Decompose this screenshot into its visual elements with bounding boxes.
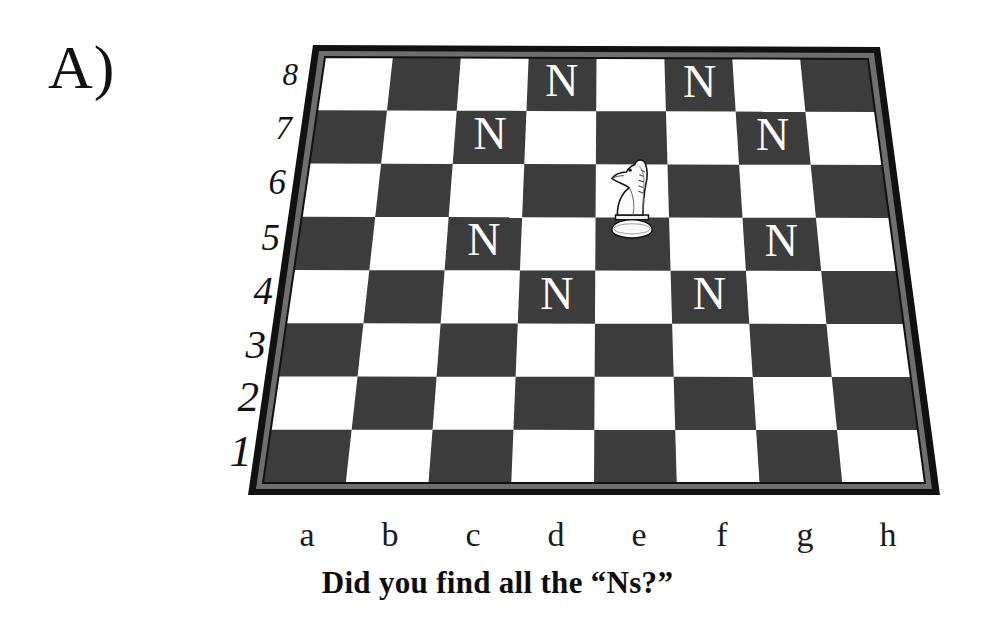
file-label-e: e [619, 516, 659, 554]
chessboard-figure: NNNNNNNN 8 7 6 5 4 3 2 1 a b c d e f g h [0, 0, 995, 630]
board-square-a1 [263, 430, 352, 483]
board-square-c1 [429, 430, 514, 483]
rank-label-6: 6 [246, 163, 286, 203]
knight-move-marker-d8: N [545, 55, 578, 106]
knight-move-marker-f8: N [683, 56, 716, 107]
rank-label-4: 4 [233, 268, 273, 313]
file-label-d: d [536, 516, 576, 554]
rank-label-8: 8 [258, 57, 298, 93]
board-square-e1 [594, 430, 677, 483]
rank-label-5: 5 [240, 216, 280, 259]
board-square-b2 [352, 377, 437, 430]
file-label-f: f [702, 516, 742, 554]
board-square-a7 [310, 110, 387, 163]
board-square-g3 [749, 324, 831, 377]
file-label-a: a [287, 516, 327, 554]
board-square-c3 [437, 323, 518, 376]
knight-move-marker-g7: N [756, 109, 789, 160]
file-label-b: b [370, 516, 410, 554]
board-square-f6 [667, 164, 742, 217]
file-label-h: h [868, 516, 908, 554]
board-square-d6 [522, 164, 596, 217]
board-square-a3 [279, 323, 364, 376]
chessboard-svg: NNNNNNNN [0, 0, 995, 630]
board-square-e3 [595, 324, 674, 377]
board-square-g1 [756, 430, 842, 483]
file-label-c: c [453, 516, 493, 554]
board-square-h8 [800, 59, 875, 112]
rank-label-7: 7 [252, 110, 292, 147]
board-square-d2 [513, 377, 594, 430]
board-square-e7 [596, 111, 668, 164]
knight-move-marker-g5: N [765, 215, 798, 266]
board-square-h6 [811, 165, 890, 218]
rank-label-3: 3 [226, 320, 266, 368]
board-square-a5 [294, 217, 375, 270]
figure-caption: Did you find all the “Ns?” [0, 565, 995, 601]
board-square-f2 [674, 377, 756, 430]
rank-label-1: 1 [212, 425, 252, 477]
board-square-b4 [363, 270, 444, 323]
knight-move-marker-f4: N [693, 268, 726, 319]
board-square-b8 [387, 57, 461, 110]
knight-move-marker-c7: N [473, 108, 506, 159]
knight-move-marker-d4: N [540, 268, 573, 319]
board-square-h4 [821, 271, 903, 324]
file-label-g: g [785, 516, 825, 554]
board-square-h2 [832, 377, 918, 430]
board-square-b6 [375, 164, 452, 217]
knight-move-marker-c5: N [467, 214, 500, 265]
rank-label-2: 2 [219, 372, 259, 421]
